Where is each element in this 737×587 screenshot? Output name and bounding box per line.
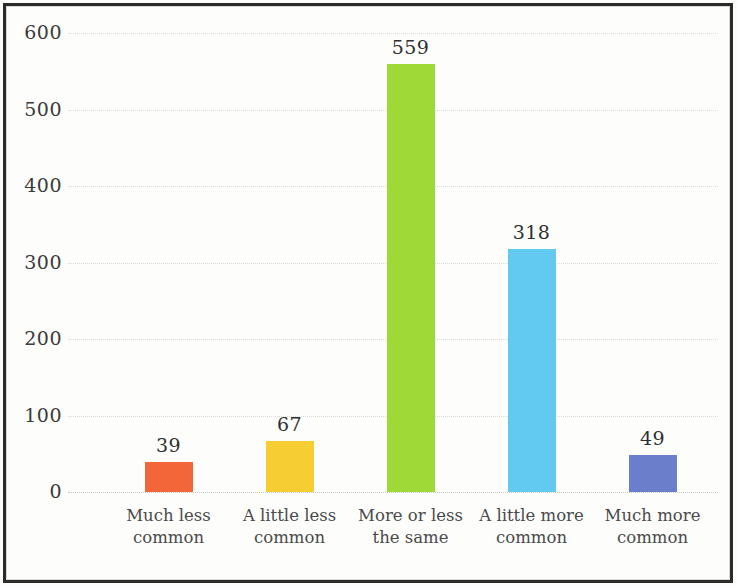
y-axis-tick-label-500: 500 [0, 100, 62, 119]
y-axis-tick-label-100: 100 [0, 406, 62, 425]
bar-4[interactable] [508, 249, 556, 492]
y-axis-tick-label-0: 0 [0, 482, 62, 501]
x-axis-label-line-2: common [226, 527, 354, 549]
x-axis-label-line-2: common [589, 527, 717, 549]
bar-value-label-4: 318 [492, 223, 572, 242]
bar-3[interactable] [387, 64, 435, 492]
x-axis-category-label-1: Much lesscommon [105, 505, 233, 550]
gridline-600 [68, 33, 718, 35]
x-axis-label-line-1: Much less [105, 505, 233, 527]
y-axis-tick-label-300: 300 [0, 253, 62, 272]
bar-value-label-2: 67 [250, 415, 330, 434]
plot-area: 6005004003002001000 396755931849 Much le… [0, 0, 737, 587]
gridline-0 [68, 492, 718, 494]
x-axis-label-line-1: A little more [468, 505, 596, 527]
x-axis-category-label-2: A little lesscommon [226, 505, 354, 550]
x-axis-category-label-4: A little morecommon [468, 505, 596, 550]
x-axis-label-line-1: Much more [589, 505, 717, 527]
x-axis-label-line-2: common [105, 527, 233, 549]
bar-chart-figure: 6005004003002001000 396755931849 Much le… [0, 0, 737, 587]
bar-value-label-5: 49 [613, 429, 693, 448]
x-axis-label-line-2: the same [347, 527, 475, 549]
bar-2[interactable] [266, 441, 314, 492]
bar-value-label-1: 39 [129, 436, 209, 455]
x-axis-label-line-2: common [468, 527, 596, 549]
bar-1[interactable] [145, 462, 193, 492]
x-axis-category-label-5: Much morecommon [589, 505, 717, 550]
bar-value-label-3: 559 [371, 38, 451, 57]
y-axis-tick-label-400: 400 [0, 176, 62, 195]
x-axis-label-line-1: More or less [347, 505, 475, 527]
y-axis-tick-label-200: 200 [0, 329, 62, 348]
y-axis-tick-label-600: 600 [0, 23, 62, 42]
x-axis-category-label-3: More or lessthe same [347, 505, 475, 550]
bar-5[interactable] [629, 455, 677, 492]
x-axis-label-line-1: A little less [226, 505, 354, 527]
